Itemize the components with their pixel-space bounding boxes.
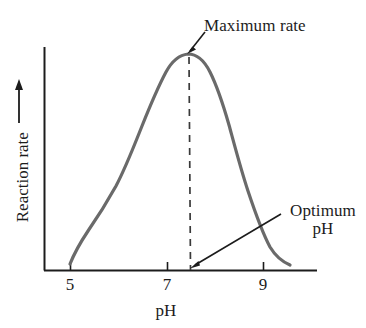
annotation-optimum-ph: Optimum pH — [283, 202, 363, 239]
y-axis-title: Reaction rate — [14, 107, 32, 247]
ph-reaction-rate-chart: Maximum rate Optimum pH 5 7 9 pH Reactio… — [0, 0, 366, 328]
annotation-optimum-ph-line2: pH — [283, 220, 363, 238]
x-tick-label-5: 5 — [62, 276, 78, 294]
maximum-rate-arrow — [187, 32, 205, 54]
annotation-optimum-ph-line1: Optimum — [290, 201, 356, 220]
optimum-ph-dashed-line — [189, 57, 191, 270]
x-tick-label-9: 9 — [255, 276, 271, 294]
x-axis-title: pH — [146, 302, 186, 320]
chart-canvas — [0, 0, 366, 328]
reaction-rate-curve — [70, 54, 290, 265]
x-tick-label-7: 7 — [159, 276, 175, 294]
annotation-maximum-rate: Maximum rate — [204, 17, 306, 35]
